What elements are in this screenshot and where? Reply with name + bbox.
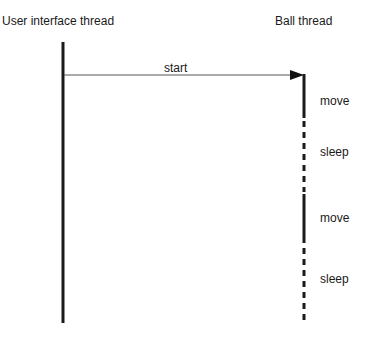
start-arrowhead-icon — [290, 70, 304, 80]
ball-thread-title: Ball thread — [275, 14, 332, 28]
start-message-label: start — [164, 61, 187, 75]
activity-label-sleep-2: sleep — [320, 272, 349, 286]
ui-thread-title: User interface thread — [2, 14, 114, 28]
activity-label-move-1: move — [320, 94, 349, 108]
activity-label-move-2: move — [320, 211, 349, 225]
activity-label-sleep-1: sleep — [320, 145, 349, 159]
sequence-diagram — [0, 0, 376, 339]
